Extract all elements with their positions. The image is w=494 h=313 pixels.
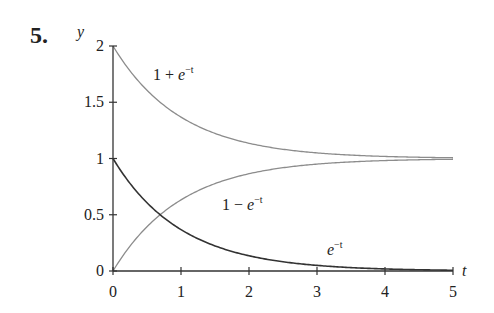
y-tick-label: 0	[96, 262, 104, 279]
curve-one-plus-exp	[113, 46, 453, 158]
y-tick-label: 0.5	[84, 206, 104, 223]
x-tick-label: 1	[177, 283, 185, 300]
label-one-minus-exp: 1 − e−t	[222, 194, 263, 213]
chart: 01234500.511.52 t y 1 + e−t 1 − e−t e−t	[0, 0, 494, 313]
y-axis-label: y	[75, 23, 85, 41]
curve-one-minus-exp	[113, 159, 453, 271]
y-tick-label: 1.5	[84, 93, 104, 110]
x-tick-label: 5	[449, 283, 457, 300]
y-tick-label: 2	[96, 37, 104, 54]
curve-exp	[113, 159, 453, 271]
x-tick-label: 0	[109, 283, 117, 300]
x-tick-label: 2	[245, 283, 253, 300]
x-tick-label: 4	[381, 283, 389, 300]
x-tick-label: 3	[313, 283, 321, 300]
y-tick-label: 1	[96, 150, 104, 167]
label-one-plus-exp: 1 + e−t	[153, 64, 194, 83]
label-exp: e−t	[327, 239, 343, 258]
x-axis-label: t	[462, 262, 467, 279]
